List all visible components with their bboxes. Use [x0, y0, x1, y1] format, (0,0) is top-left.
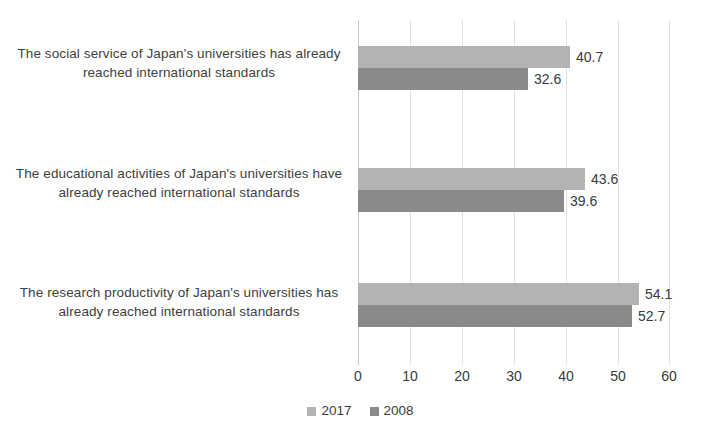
bar-value-2008-2: 39.6	[564, 190, 597, 212]
category-label-2: The educational activities of Japan's un…	[8, 164, 350, 202]
category-label-3: The research productivity of Japan's uni…	[8, 283, 350, 321]
category-group-2: The educational activities of Japan's un…	[0, 150, 721, 265]
x-axis: 0 10 20 30 40 50 60	[358, 368, 670, 390]
x-tick-20: 20	[454, 368, 470, 384]
bar-value-2008-1: 32.6	[528, 68, 561, 90]
chart-legend: 2017 2008	[0, 404, 721, 418]
category-label-1: The social service of Japan's universiti…	[8, 44, 350, 82]
bar-value-2017-3: 54.1	[639, 283, 672, 305]
bar-2008-2	[358, 190, 564, 212]
bar-2017-2	[358, 168, 585, 190]
legend-label-2017: 2017	[321, 404, 351, 418]
bar-2008-1	[358, 68, 528, 90]
legend-item-2008[interactable]: 2008	[370, 404, 414, 418]
x-tick-30: 30	[506, 368, 522, 384]
bar-2017-1	[358, 46, 570, 68]
legend-item-2017[interactable]: 2017	[307, 404, 351, 418]
legend-label-2008: 2008	[384, 404, 414, 418]
bar-value-2017-1: 40.7	[570, 46, 603, 68]
bar-value-2008-3: 52.7	[632, 305, 665, 327]
category-group-3: The research productivity of Japan's uni…	[0, 265, 721, 380]
category-group-1: The social service of Japan's universiti…	[0, 32, 721, 147]
bar-2017-3	[358, 283, 639, 305]
x-tick-0: 0	[354, 368, 362, 384]
legend-swatch-icon-2017	[307, 407, 316, 416]
legend-swatch-icon-2008	[370, 407, 379, 416]
x-tick-10: 10	[402, 368, 418, 384]
x-tick-50: 50	[610, 368, 626, 384]
bar-2008-3	[358, 305, 632, 327]
x-tick-40: 40	[558, 368, 574, 384]
bar-value-2017-2: 43.6	[585, 168, 618, 190]
x-tick-60: 60	[661, 368, 677, 384]
bar-chart: The social service of Japan's universiti…	[0, 0, 721, 440]
